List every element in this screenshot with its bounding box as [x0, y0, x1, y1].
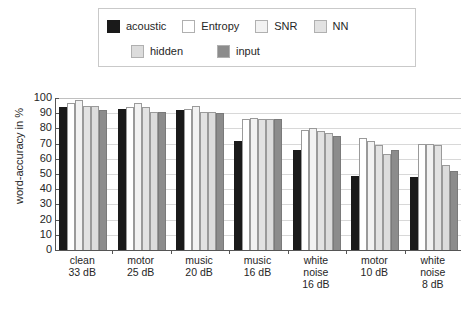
y-axis-tick-labels: 1009080706050403020100 — [22, 92, 52, 256]
bar-acoustic[interactable] — [351, 176, 359, 250]
bar-hidden[interactable] — [91, 106, 99, 250]
legend-item-nn: NN — [314, 20, 349, 33]
bar-input[interactable] — [216, 113, 224, 250]
x-group-label: motor10 dB — [347, 254, 401, 290]
y-tick-90: 90 — [22, 107, 52, 118]
bar-snr[interactable] — [134, 103, 142, 250]
x-label-line: 33 dB — [55, 266, 109, 278]
bar-entropy[interactable] — [359, 138, 367, 250]
bar-hidden[interactable] — [150, 112, 158, 250]
y-tick-mark — [55, 250, 59, 251]
bar-nn[interactable] — [317, 131, 325, 250]
y-tick-70: 70 — [22, 138, 52, 149]
y-tick-mark — [55, 220, 59, 221]
y-tick-30: 30 — [22, 198, 52, 209]
bar-acoustic[interactable] — [176, 110, 184, 250]
bar-group — [173, 98, 227, 250]
bar-group — [56, 98, 110, 250]
bar-hidden[interactable] — [208, 112, 216, 250]
legend-label-snr: SNR — [274, 21, 297, 32]
bar-groups — [56, 98, 461, 250]
bar-nn[interactable] — [83, 106, 91, 250]
bar-input[interactable] — [450, 171, 458, 250]
legend-item-input: input — [217, 45, 260, 58]
legend-row-2: hidden input — [107, 39, 407, 64]
y-tick-mark — [55, 113, 59, 114]
bar-group — [407, 98, 461, 250]
legend-swatch-snr — [255, 20, 268, 33]
x-label-line: 16 dB — [230, 266, 284, 278]
x-group-label: clean33 dB — [55, 254, 109, 290]
y-tick-80: 80 — [22, 122, 52, 133]
bar-entropy[interactable] — [301, 130, 309, 250]
y-tick-60: 60 — [22, 153, 52, 164]
bar-acoustic[interactable] — [59, 107, 67, 250]
legend-item-hidden: hidden — [131, 45, 183, 58]
legend-swatch-acoustic — [107, 20, 120, 33]
bar-entropy[interactable] — [184, 109, 192, 250]
x-group-label: whitenoise16 dB — [289, 254, 343, 290]
x-label-line: music — [172, 254, 226, 266]
bar-entropy[interactable] — [242, 119, 250, 250]
y-tick-40: 40 — [22, 183, 52, 194]
bar-hidden[interactable] — [325, 133, 333, 250]
x-label-line: 20 dB — [172, 266, 226, 278]
bar-snr[interactable] — [250, 118, 258, 250]
bar-nn[interactable] — [142, 107, 150, 250]
y-tick-mark — [55, 235, 59, 236]
bar-group — [114, 98, 168, 250]
bar-group — [231, 98, 285, 250]
legend-swatch-hidden — [131, 45, 144, 58]
legend-swatch-entropy — [182, 20, 195, 33]
y-tick-mark — [55, 159, 59, 160]
bar-input[interactable] — [333, 136, 341, 250]
legend-label-hidden: hidden — [150, 46, 183, 57]
chart-legend: acoustic Entropy SNR NN hidden input — [98, 8, 416, 67]
bar-nn[interactable] — [375, 145, 383, 250]
x-label-line: clean — [55, 254, 109, 266]
legend-row-1: acoustic Entropy SNR NN — [107, 14, 407, 39]
legend-label-nn: NN — [333, 21, 349, 32]
bar-nn[interactable] — [200, 112, 208, 250]
bar-nn[interactable] — [258, 119, 266, 250]
bar-entropy[interactable] — [126, 107, 134, 250]
legend-item-acoustic: acoustic — [107, 20, 166, 33]
x-group-label: music20 dB — [172, 254, 226, 290]
y-tick-20: 20 — [22, 214, 52, 225]
x-group-label: motor25 dB — [113, 254, 167, 290]
legend-swatch-input — [217, 45, 230, 58]
y-tick-0: 0 — [22, 244, 52, 255]
bar-snr[interactable] — [367, 141, 375, 250]
x-label-line: motor — [347, 254, 401, 266]
bar-entropy[interactable] — [67, 103, 75, 250]
bar-group — [290, 98, 344, 250]
bar-acoustic[interactable] — [293, 150, 301, 250]
x-label-line: white — [289, 254, 343, 266]
bar-acoustic[interactable] — [410, 177, 418, 250]
bar-acoustic[interactable] — [118, 109, 126, 250]
bar-nn[interactable] — [434, 145, 442, 250]
x-label-line: motor — [113, 254, 167, 266]
bar-input[interactable] — [391, 150, 399, 250]
bar-entropy[interactable] — [418, 144, 426, 250]
x-group-label: whitenoise8 dB — [406, 254, 460, 290]
y-tick-mark — [55, 128, 59, 129]
bar-snr[interactable] — [309, 128, 317, 250]
bar-hidden[interactable] — [442, 165, 450, 250]
x-label-line: noise — [289, 266, 343, 278]
plot-area — [55, 98, 461, 251]
x-label-line: 25 dB — [113, 266, 167, 278]
bar-snr[interactable] — [426, 144, 434, 250]
bar-group — [348, 98, 402, 250]
bar-snr[interactable] — [75, 100, 83, 250]
legend-label-input: input — [236, 46, 260, 57]
bar-hidden[interactable] — [383, 154, 391, 250]
bar-input[interactable] — [274, 119, 282, 250]
bar-input[interactable] — [99, 110, 107, 250]
y-tick-mark — [55, 144, 59, 145]
bar-hidden[interactable] — [266, 119, 274, 250]
bar-input[interactable] — [158, 112, 166, 250]
legend-item-snr: SNR — [255, 20, 297, 33]
bar-acoustic[interactable] — [234, 141, 242, 250]
bar-snr[interactable] — [192, 106, 200, 250]
